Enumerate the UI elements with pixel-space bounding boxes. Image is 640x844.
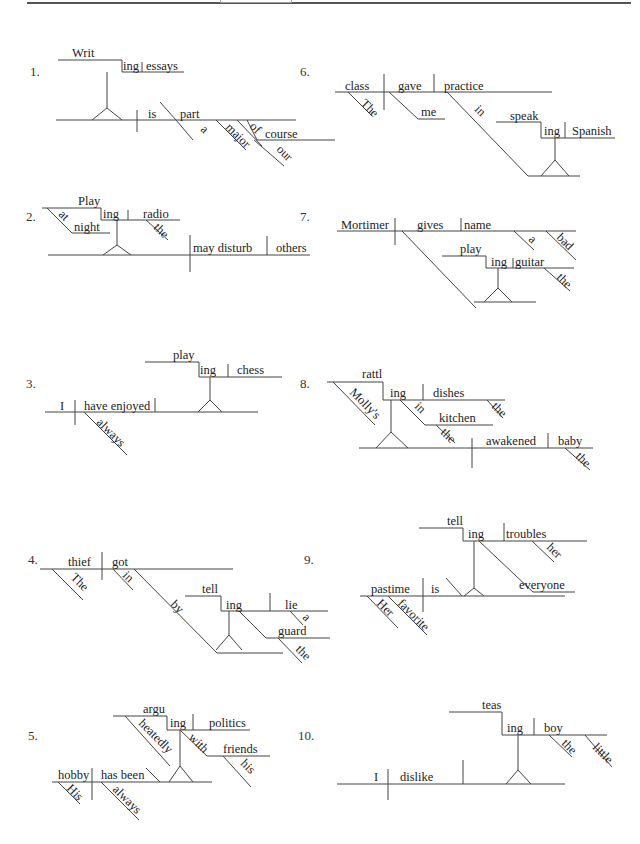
diagram-line	[216, 635, 229, 650]
diagram-word: Her	[374, 596, 398, 620]
diagram-word: have enjoyed	[84, 399, 151, 413]
diagram-line	[518, 770, 531, 784]
diagram-2: 6.classThegavepracticemeinspeakingSpanis…	[300, 64, 615, 176]
diagram-line	[107, 108, 122, 120]
diagram-word: of	[247, 119, 265, 137]
diagram-word: I	[60, 399, 64, 413]
diagram-line	[160, 102, 176, 120]
diagram-word: argu	[143, 702, 166, 716]
diagram-line	[103, 245, 117, 255]
diagram-word: awakened	[486, 434, 537, 448]
diagram-word: ing	[507, 721, 524, 735]
diagram-word: the	[293, 642, 314, 663]
diagram-word: may disturb	[193, 241, 252, 255]
diagram-word: ing	[491, 255, 508, 269]
diagram-word: with	[186, 730, 212, 756]
diagram-word: his	[238, 756, 258, 776]
diagram-line	[92, 108, 107, 120]
diagram-word: troubles	[506, 527, 546, 541]
diagram-3: 2.Playingradioatnightthemay disturbother…	[26, 194, 310, 272]
diagram-line	[506, 770, 518, 784]
diagram-word: tell	[447, 514, 463, 528]
diagram-word: in	[472, 102, 489, 119]
diagram-line	[176, 120, 193, 140]
diagram-line	[464, 588, 474, 596]
diagram-word: little	[590, 740, 616, 766]
diagram-word: pastime	[371, 582, 410, 596]
diagram-line	[180, 766, 193, 782]
diagram-word: thief	[68, 555, 92, 569]
diagram-line	[484, 288, 498, 302]
diagram-word: boy	[544, 721, 564, 735]
diagram-word: practice	[444, 79, 484, 93]
diagram-word: ing	[468, 527, 485, 541]
diagram-word: ing	[544, 124, 561, 138]
diagram-word: play	[460, 242, 482, 256]
diagram-word: by	[168, 597, 187, 616]
diagram-word: teas	[482, 698, 502, 712]
diagram-word: favorite	[395, 596, 433, 634]
diagram-word: at	[56, 207, 73, 224]
diagram-word: ing	[200, 363, 217, 377]
diagram-word: ing	[226, 598, 243, 612]
diagram-number: 7.	[300, 209, 310, 224]
diagram-line	[376, 432, 391, 448]
diagram-word: ing	[390, 386, 407, 400]
diagram-10: 10.teasingboythelittleIdislike	[298, 698, 616, 800]
diagram-6: 8.rattlingdishesMolly'stheinkitchentheaw…	[300, 367, 594, 470]
diagram-line	[146, 768, 160, 782]
diagram-line	[229, 635, 242, 650]
diagram-word: the	[559, 736, 580, 757]
diagram-word: Molly's	[347, 385, 384, 422]
diagram-word: hobby	[58, 768, 90, 782]
diagram-number: 5.	[28, 728, 38, 743]
diagram-word: the	[489, 399, 510, 420]
diagram-word: is	[431, 582, 439, 596]
diagram-word: has been	[101, 768, 145, 782]
diagram-word: rattl	[362, 367, 383, 381]
diagram-line	[447, 92, 528, 176]
diagram-line	[389, 92, 418, 119]
diagram-line	[498, 288, 512, 302]
diagram-word: politics	[209, 716, 246, 730]
diagram-line	[210, 400, 222, 412]
diagram-word: everyone	[519, 578, 565, 592]
diagram-word: in	[120, 568, 137, 585]
diagram-5: 3.playingchessIhave enjoyedalways	[26, 348, 282, 455]
diagram-word: speak	[510, 109, 539, 123]
diagram-number: 3.	[26, 376, 36, 391]
diagram-word: The	[358, 96, 382, 120]
diagram-word: friends	[223, 742, 258, 756]
diagram-word: dislike	[400, 770, 434, 784]
diagram-word: got	[112, 555, 129, 569]
diagram-number: 8.	[300, 376, 310, 391]
diagram-word: our	[274, 142, 296, 164]
diagram-number: 10.	[298, 728, 314, 743]
diagram-word: radio	[143, 207, 169, 221]
diagram-line	[541, 160, 555, 176]
diagram-word: ing	[103, 207, 120, 221]
diagram-7: 4.thiefgotTheinbytellinglieaguardthe	[28, 552, 330, 663]
diagram-number: 6.	[300, 64, 310, 79]
diagram-word: kitchen	[439, 411, 477, 425]
diagram-word: ing	[170, 716, 187, 730]
sentence-diagram-sheet: 1.Writingessaysispartamajorofcourseour6.…	[0, 0, 640, 844]
diagram-word: her	[544, 540, 566, 562]
diagram-word: ing	[123, 59, 140, 73]
diagram-number: 2.	[26, 209, 36, 224]
diagram-word: class	[345, 79, 369, 93]
diagram-number: 1.	[30, 64, 40, 79]
diagram-line	[446, 578, 462, 596]
diagram-word: the	[438, 425, 459, 446]
diagram-word: part	[180, 107, 200, 121]
diagram-word: baby	[558, 434, 583, 448]
diagram-4: 7.Mortimergivesnameabadplayingguitarthe	[300, 209, 577, 308]
diagram-word: the	[573, 449, 594, 470]
diagram-word: name	[464, 218, 492, 232]
diagram-word: a	[198, 122, 212, 136]
diagram-number: 9.	[304, 552, 314, 567]
diagram-line	[391, 432, 408, 448]
diagram-word: me	[421, 105, 437, 119]
diagram-word: course	[265, 127, 298, 141]
diagram-8: 9.tellingtroubleshereveryonepastimeisHer…	[304, 514, 587, 635]
